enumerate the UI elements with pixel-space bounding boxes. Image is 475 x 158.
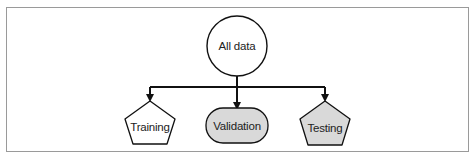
validation-node-label: Validation bbox=[213, 120, 261, 132]
testing-node-label: Testing bbox=[307, 122, 342, 134]
training-node-label: Training bbox=[130, 121, 170, 133]
diagram-canvas bbox=[0, 0, 475, 158]
root-node-label: All data bbox=[219, 40, 256, 52]
connector-lines bbox=[150, 76, 325, 106]
